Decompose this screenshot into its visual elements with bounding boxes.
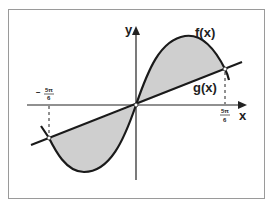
left-tick-numerator: 5π: [45, 87, 53, 93]
right-tick-denominator: 6: [223, 117, 227, 123]
f-label: f(x): [195, 25, 215, 40]
intersection-point-right: [223, 67, 227, 71]
left-tick-sign: −: [36, 88, 41, 97]
intersection-point-origin: [134, 103, 138, 107]
chart-plot: f(x) g(x) y x − 5π 6 5π 6: [0, 0, 271, 205]
g-label: g(x): [193, 80, 217, 95]
right-tick-numerator: 5π: [221, 108, 229, 114]
y-axis-arrow-icon: [132, 26, 140, 35]
left-tick-denominator: 6: [47, 95, 51, 101]
intersection-point-left: [47, 136, 51, 140]
y-axis-label: y: [125, 22, 133, 37]
x-axis-label: x: [239, 108, 247, 123]
